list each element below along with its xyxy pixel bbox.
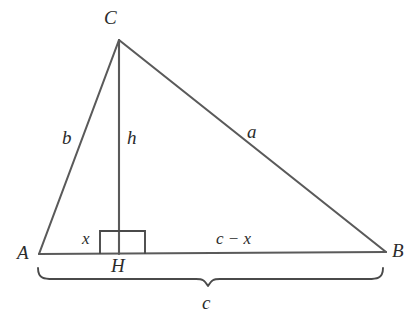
segment-label-x: x	[82, 230, 90, 247]
side-ac-line	[39, 40, 119, 254]
vertex-label-a: A	[17, 243, 29, 262]
vertex-label-b: B	[392, 241, 404, 260]
vertex-label-c: C	[104, 8, 117, 27]
side-label-h: h	[127, 128, 137, 147]
side-cb-line	[119, 40, 386, 252]
vertex-label-h: H	[111, 256, 125, 275]
base-ab-line	[39, 252, 386, 254]
right-angle-marker-icon	[100, 231, 145, 254]
geometry-diagram: A B C H b a h x c − x c	[0, 0, 412, 324]
segment-label-c-minus-x: c − x	[216, 230, 251, 247]
side-label-a: a	[247, 122, 257, 141]
side-label-b: b	[62, 128, 72, 147]
brace-c-icon	[38, 268, 383, 286]
diagram-canvas	[0, 0, 412, 324]
brace-label-c: c	[202, 293, 210, 312]
